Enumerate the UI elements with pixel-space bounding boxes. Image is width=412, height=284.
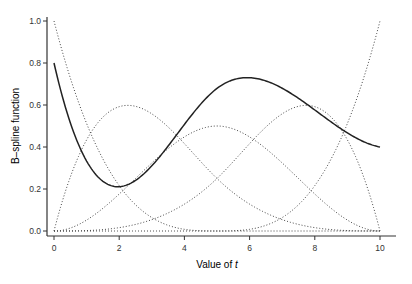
y-tick-label: 0.8	[29, 58, 41, 68]
y-tick-label: 0.6	[29, 100, 41, 110]
x-tick-label: 6	[247, 243, 252, 253]
basis-curve-b4	[54, 105, 380, 231]
y-tick-label: 0.4	[29, 142, 41, 152]
y-tick-label: 0.0	[29, 226, 41, 236]
y-tick-label: 0.2	[29, 184, 41, 194]
x-tick-label: 10	[375, 243, 385, 253]
basis-curve-b2	[54, 105, 380, 231]
plot-area	[54, 21, 380, 231]
x-tick-label: 8	[312, 243, 317, 253]
x-axis-ticks: 0246810	[52, 236, 385, 253]
basis-curve-b3	[54, 126, 380, 231]
y-axis-ticks: 0.00.20.40.60.81.0	[29, 16, 47, 236]
bspline-chart: 0.00.20.40.60.81.0 0246810 B–spline func…	[0, 0, 412, 284]
x-tick-label: 4	[182, 243, 187, 253]
y-tick-label: 1.0	[29, 16, 41, 26]
y-axis-title: B–spline function	[10, 88, 21, 164]
x-axis-title: Value of t	[196, 259, 239, 270]
x-tick-label: 2	[117, 243, 122, 253]
spline-curve	[54, 63, 380, 187]
x-tick-label: 0	[52, 243, 57, 253]
